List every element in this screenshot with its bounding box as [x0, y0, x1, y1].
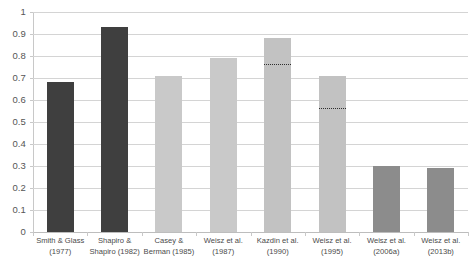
- bar: [210, 58, 237, 232]
- x-axis-label-line: (1990): [251, 247, 305, 258]
- gridline: [33, 210, 468, 211]
- y-axis-tick-label: 0.8: [0, 50, 26, 61]
- bar: [427, 168, 454, 232]
- bar: [47, 82, 74, 232]
- y-axis-tick-label: 0.9: [0, 28, 26, 39]
- x-axis-category-label: Weisz et al.(2013b): [414, 236, 468, 257]
- x-axis-label-line: Smith & Glass: [33, 236, 87, 247]
- x-axis-category-label: Kazdin et al.(1990): [251, 236, 305, 257]
- gridline: [33, 122, 468, 123]
- x-axis-label-line: Casey &: [142, 236, 196, 247]
- x-axis-category-label: Smith & Glass(1977): [33, 236, 87, 257]
- x-axis-label-line: Weisz et al.: [305, 236, 359, 247]
- plot-area: [33, 12, 468, 232]
- x-axis-label-line: Weisz et al.: [414, 236, 468, 247]
- x-axis-label-line: (1977): [33, 247, 87, 258]
- gridline: [33, 34, 468, 35]
- x-axis-tick-mark: [468, 232, 469, 236]
- x-axis-category-label: Weisz et al.(2006a): [359, 236, 413, 257]
- y-axis-tick-label: 0.4: [0, 138, 26, 149]
- gridline: [33, 166, 468, 167]
- x-axis-category-label: Shapiro &Shapiro (1982): [87, 236, 141, 257]
- gridline: [33, 56, 468, 57]
- y-axis-tick-label: 0.7: [0, 72, 26, 83]
- x-axis-label-line: Shapiro (1982): [87, 247, 141, 258]
- y-axis-tick-label: 0.2: [0, 182, 26, 193]
- x-axis-label-line: (2013b): [414, 247, 468, 258]
- x-axis-label-line: Kazdin et al.: [251, 236, 305, 247]
- x-axis-label-line: Weisz et al.: [359, 236, 413, 247]
- bar: [373, 166, 400, 232]
- bar: [155, 76, 182, 232]
- x-axis-label-line: Weisz et al.: [196, 236, 250, 247]
- x-axis-category-label: Casey &Berman (1985): [142, 236, 196, 257]
- bar: [101, 27, 128, 232]
- x-axis-category-label: Weisz et al.(1995): [305, 236, 359, 257]
- y-axis-tick-label: 0: [0, 226, 26, 237]
- gridline: [33, 188, 468, 189]
- y-axis-tick-label: 0.3: [0, 160, 26, 171]
- gridline: [33, 100, 468, 101]
- bar-chart: 10.90.80.70.60.50.40.30.20.10 Smith & Gl…: [0, 0, 474, 266]
- x-axis-label-line: Shapiro &: [87, 236, 141, 247]
- x-axis-category-label: Weisz et al.(1987): [196, 236, 250, 257]
- bar: [319, 76, 346, 232]
- x-axis-label-line: (1995): [305, 247, 359, 258]
- x-axis-category-labels: Smith & Glass(1977)Shapiro &Shapiro (198…: [33, 236, 468, 264]
- bar: [264, 38, 291, 232]
- bar-annotation-dotted-line: [319, 108, 346, 109]
- y-axis-tick-label: 0.5: [0, 116, 26, 127]
- x-axis-label-line: (1987): [196, 247, 250, 258]
- gridline: [33, 78, 468, 79]
- y-axis-tick-label: 0.6: [0, 94, 26, 105]
- x-axis-label-line: Berman (1985): [142, 247, 196, 258]
- y-axis-tick-label: 0.1: [0, 204, 26, 215]
- x-axis-label-line: (2006a): [359, 247, 413, 258]
- bar-annotation-dotted-line: [264, 64, 291, 65]
- gridline: [33, 12, 468, 13]
- gridline: [33, 144, 468, 145]
- y-axis-tick-label: 1: [0, 6, 26, 17]
